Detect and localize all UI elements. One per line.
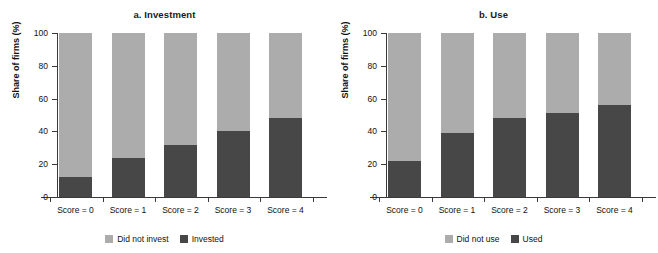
x-tick-mark bbox=[155, 197, 156, 202]
x-tick-mark bbox=[537, 197, 538, 202]
legend-swatch-icon bbox=[445, 235, 453, 243]
bar-segment-did-not-use[interactable] bbox=[598, 33, 631, 105]
bar-segment-did-not-invest[interactable] bbox=[164, 33, 197, 145]
panel-title-use: b. Use bbox=[329, 9, 658, 20]
legend-item[interactable]: Invested bbox=[180, 234, 224, 244]
legend-investment: Did not investInvested bbox=[0, 234, 329, 244]
bar-group[interactable] bbox=[269, 33, 302, 197]
y-tick-label: 80 bbox=[341, 61, 377, 71]
bars-investment bbox=[57, 33, 327, 197]
y-tick-label: 60 bbox=[341, 94, 377, 104]
stacked-bar-figure: a. Investment Share of firms (%) Did not… bbox=[0, 0, 658, 253]
x-tick-mark bbox=[313, 197, 314, 202]
y-tick-label: 100 bbox=[12, 28, 48, 38]
y-tick-label: 40 bbox=[341, 126, 377, 136]
x-tick-mark bbox=[208, 197, 209, 202]
y-tick-mark bbox=[52, 33, 57, 34]
y-tick-label: 80 bbox=[12, 61, 48, 71]
legend-item[interactable]: Did not invest bbox=[105, 234, 169, 244]
bar-group[interactable] bbox=[598, 33, 631, 197]
y-tick-mark bbox=[381, 66, 386, 67]
bar-segment-invested[interactable] bbox=[112, 158, 145, 197]
bar-segment-used[interactable] bbox=[493, 118, 526, 197]
legend-item[interactable]: Used bbox=[511, 234, 543, 244]
y-tick-mark bbox=[52, 164, 57, 165]
bar-segment-did-not-use[interactable] bbox=[493, 33, 526, 118]
bar-segment-invested[interactable] bbox=[217, 131, 250, 197]
legend-label: Invested bbox=[192, 234, 224, 244]
bar-segment-invested[interactable] bbox=[269, 118, 302, 197]
bar-segment-invested[interactable] bbox=[59, 177, 92, 197]
x-tick-mark bbox=[642, 197, 643, 202]
y-tick-mark bbox=[381, 33, 386, 34]
legend-use: Did not useUsed bbox=[329, 234, 658, 244]
panel-use: b. Use Share of firms (%) Did not useUse… bbox=[329, 0, 658, 253]
bar-segment-invested[interactable] bbox=[164, 145, 197, 197]
bar-segment-used[interactable] bbox=[388, 161, 421, 197]
bar-segment-did-not-invest[interactable] bbox=[269, 33, 302, 118]
y-tick-mark bbox=[381, 131, 386, 132]
x-tick-mark bbox=[379, 197, 380, 202]
y-tick-mark bbox=[52, 197, 57, 198]
y-tick-mark bbox=[52, 99, 57, 100]
x-tick-mark bbox=[260, 197, 261, 202]
legend-label: Did not use bbox=[457, 234, 500, 244]
bar-segment-used[interactable] bbox=[598, 105, 631, 197]
bar-group[interactable] bbox=[217, 33, 250, 197]
bar-segment-used[interactable] bbox=[546, 113, 579, 197]
x-tick-mark bbox=[103, 197, 104, 202]
bar-segment-did-not-use[interactable] bbox=[388, 33, 421, 161]
bar-group[interactable] bbox=[546, 33, 579, 197]
bar-segment-did-not-invest[interactable] bbox=[112, 33, 145, 158]
panel-title-investment: a. Investment bbox=[0, 9, 329, 20]
legend-label: Used bbox=[523, 234, 543, 244]
bar-group[interactable] bbox=[112, 33, 145, 197]
legend-item[interactable]: Did not use bbox=[445, 234, 500, 244]
x-axis-label: Score = 4 bbox=[580, 205, 650, 215]
y-tick-label: 100 bbox=[341, 28, 377, 38]
x-tick-mark bbox=[589, 197, 590, 202]
x-tick-mark bbox=[432, 197, 433, 202]
bar-group[interactable] bbox=[441, 33, 474, 197]
x-tick-mark bbox=[484, 197, 485, 202]
panel-investment: a. Investment Share of firms (%) Did not… bbox=[0, 0, 329, 253]
x-axis-line-investment bbox=[41, 197, 327, 198]
y-tick-mark bbox=[52, 66, 57, 67]
bar-segment-did-not-invest[interactable] bbox=[217, 33, 250, 131]
bars-use bbox=[386, 33, 656, 197]
legend-swatch-icon bbox=[105, 235, 113, 243]
bar-group[interactable] bbox=[164, 33, 197, 197]
y-tick-label: 20 bbox=[341, 159, 377, 169]
bar-group[interactable] bbox=[59, 33, 92, 197]
y-tick-label: 0 bbox=[12, 192, 48, 202]
bar-group[interactable] bbox=[493, 33, 526, 197]
y-tick-label: 20 bbox=[12, 159, 48, 169]
bar-segment-did-not-use[interactable] bbox=[441, 33, 474, 133]
bar-segment-did-not-use[interactable] bbox=[546, 33, 579, 113]
legend-swatch-icon bbox=[180, 235, 188, 243]
legend-swatch-icon bbox=[511, 235, 519, 243]
x-axis-line-use bbox=[370, 197, 656, 198]
y-tick-label: 40 bbox=[12, 126, 48, 136]
y-tick-mark bbox=[52, 131, 57, 132]
y-tick-mark bbox=[381, 164, 386, 165]
y-tick-label: 0 bbox=[341, 192, 377, 202]
y-tick-mark bbox=[381, 99, 386, 100]
bar-segment-used[interactable] bbox=[441, 133, 474, 197]
legend-label: Did not invest bbox=[117, 234, 169, 244]
x-tick-mark bbox=[50, 197, 51, 202]
bar-group[interactable] bbox=[388, 33, 421, 197]
y-tick-mark bbox=[381, 197, 386, 198]
x-axis-label: Score = 4 bbox=[251, 205, 321, 215]
bar-segment-did-not-invest[interactable] bbox=[59, 33, 92, 177]
y-tick-label: 60 bbox=[12, 94, 48, 104]
